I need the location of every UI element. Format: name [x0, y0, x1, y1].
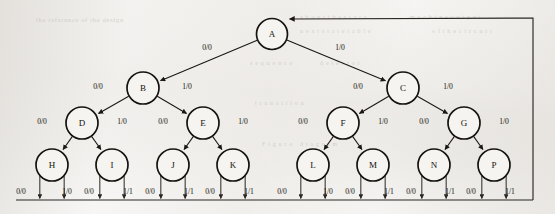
- tree-edge: [324, 136, 333, 149]
- tree-nodes: ABCDEFGHIJKLMNP: [36, 19, 510, 182]
- leaf-output-label: 1/0: [323, 187, 333, 196]
- tree-edge: [353, 136, 362, 149]
- state-node-label: K: [230, 160, 237, 170]
- tree-edge-label: 0/0: [353, 82, 363, 91]
- tree-edge: [417, 96, 447, 113]
- leaf-output-label: 0/0: [345, 187, 355, 196]
- state-node-label: C: [400, 83, 406, 93]
- tree-edge-label: 1/0: [238, 117, 248, 126]
- tree-edge: [474, 136, 483, 149]
- state-node[interactable]: C: [387, 72, 419, 104]
- state-node[interactable]: H: [36, 149, 68, 181]
- tree-edge: [157, 96, 186, 113]
- state-node-label: M: [369, 160, 377, 170]
- tree-edge-label: 0/0: [93, 82, 103, 91]
- state-node-label: N: [431, 160, 438, 170]
- leaf-output-label: 1/1: [184, 187, 194, 196]
- state-node-label: G: [461, 118, 468, 128]
- state-node-label: I: [111, 160, 114, 170]
- tree-edge-label: 1/0: [335, 43, 345, 52]
- tree-edge: [213, 136, 222, 149]
- state-node[interactable]: F: [327, 107, 359, 139]
- tree-edges: [63, 40, 483, 149]
- tree-edge-label: 0/0: [419, 117, 429, 126]
- state-node[interactable]: A: [257, 19, 288, 50]
- state-node-label: F: [340, 118, 345, 128]
- tree-edge-label: 0/0: [37, 117, 47, 126]
- leaf-output-label: 0/0: [16, 187, 26, 196]
- leaf-output-label: 1/1: [123, 187, 133, 196]
- state-node[interactable]: I: [96, 149, 128, 181]
- state-node-label: L: [310, 160, 316, 170]
- tree-edge: [98, 96, 128, 113]
- state-node[interactable]: B: [127, 72, 159, 104]
- tree-edge: [359, 96, 388, 113]
- state-node[interactable]: J: [157, 149, 189, 181]
- tree-edge: [92, 136, 101, 149]
- leaf-output-label: 1/1: [384, 187, 394, 196]
- state-node-label: A: [269, 29, 276, 39]
- state-node-label: P: [491, 160, 496, 170]
- tree-edge: [184, 136, 193, 149]
- tree-edge-labels: 0/01/00/01/00/01/00/01/00/01/00/01/00/01…: [37, 43, 509, 126]
- leaf-output-label: 1/1: [445, 187, 455, 196]
- state-node[interactable]: K: [217, 149, 249, 181]
- leaf-output-label: 0/0: [406, 187, 416, 196]
- tree-edge: [63, 136, 72, 149]
- tree-edge-label: 1/0: [182, 82, 192, 91]
- diagram-page: the reference of the designa b o u t t h…: [0, 0, 555, 214]
- state-node-label: B: [140, 83, 146, 93]
- tree-edge-label: 0/0: [298, 117, 308, 126]
- leaf-output-label: 1/1: [505, 187, 515, 196]
- state-node[interactable]: E: [187, 107, 219, 139]
- leaf-output-label: 1/0: [62, 187, 72, 196]
- tree-edge-label: 0/0: [158, 117, 168, 126]
- state-node[interactable]: N: [418, 149, 450, 181]
- state-node-label: D: [79, 118, 86, 128]
- state-node[interactable]: D: [66, 107, 98, 139]
- leaf-output-label: 0/0: [466, 187, 476, 196]
- state-node[interactable]: L: [297, 149, 329, 181]
- state-tree-diagram: ABCDEFGHIJKLMNP 0/01/00/01/00/01/00/01/0…: [0, 0, 555, 214]
- tree-edge-label: 1/0: [378, 117, 388, 126]
- tree-edge-label: 1/0: [443, 82, 453, 91]
- state-node[interactable]: M: [357, 149, 389, 181]
- leaf-output-label: 1/1: [244, 187, 254, 196]
- tree-edge-label: 0/0: [202, 43, 212, 52]
- leaf-output-label: 0/0: [277, 187, 287, 196]
- state-node[interactable]: P: [478, 149, 510, 181]
- leaf-output-label: 0/0: [84, 187, 94, 196]
- state-node-label: H: [49, 160, 56, 170]
- leaf-output-label: 0/0: [145, 187, 155, 196]
- tree-edge-label: 1/0: [117, 117, 127, 126]
- state-node[interactable]: G: [448, 107, 480, 139]
- tree-edge-label: 1/0: [499, 117, 509, 126]
- state-node-label: J: [171, 160, 175, 170]
- state-node-label: E: [200, 118, 206, 128]
- leaf-output-labels: 0/01/00/01/10/01/10/01/10/01/00/01/10/01…: [16, 187, 515, 196]
- leaf-output-label: 0/0: [205, 187, 215, 196]
- tree-edge: [445, 136, 454, 149]
